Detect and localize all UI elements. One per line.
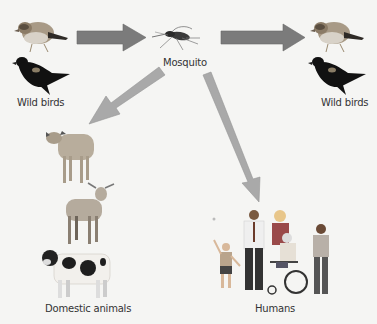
- arrow-mosquito-to-birds: [221, 24, 305, 51]
- arrow-mosquito-to-humans: [203, 72, 260, 202]
- humans-icon: [213, 210, 330, 294]
- blackbird-icon: [308, 57, 366, 95]
- arrow-birds-to-mosquito: [77, 24, 146, 51]
- domestic-animals-label: Domestic animals: [45, 303, 131, 314]
- mosquito-label: Mosquito: [163, 57, 207, 68]
- wild-birds-left-label: Wild birds: [17, 97, 64, 108]
- sheep-icon: [46, 131, 94, 183]
- sparrow-icon: [14, 22, 68, 52]
- blackbird-icon: [12, 57, 70, 95]
- goat-icon: [66, 183, 114, 244]
- sparrow-icon: [310, 22, 364, 52]
- diagram-canvas: [0, 0, 377, 324]
- wild-birds-right-label: Wild birds: [321, 97, 368, 108]
- arrow-mosquito-to-domestic: [89, 67, 165, 124]
- humans-label: Humans: [255, 303, 295, 314]
- cow-icon: [42, 250, 110, 298]
- mosquito-icon: [152, 27, 200, 50]
